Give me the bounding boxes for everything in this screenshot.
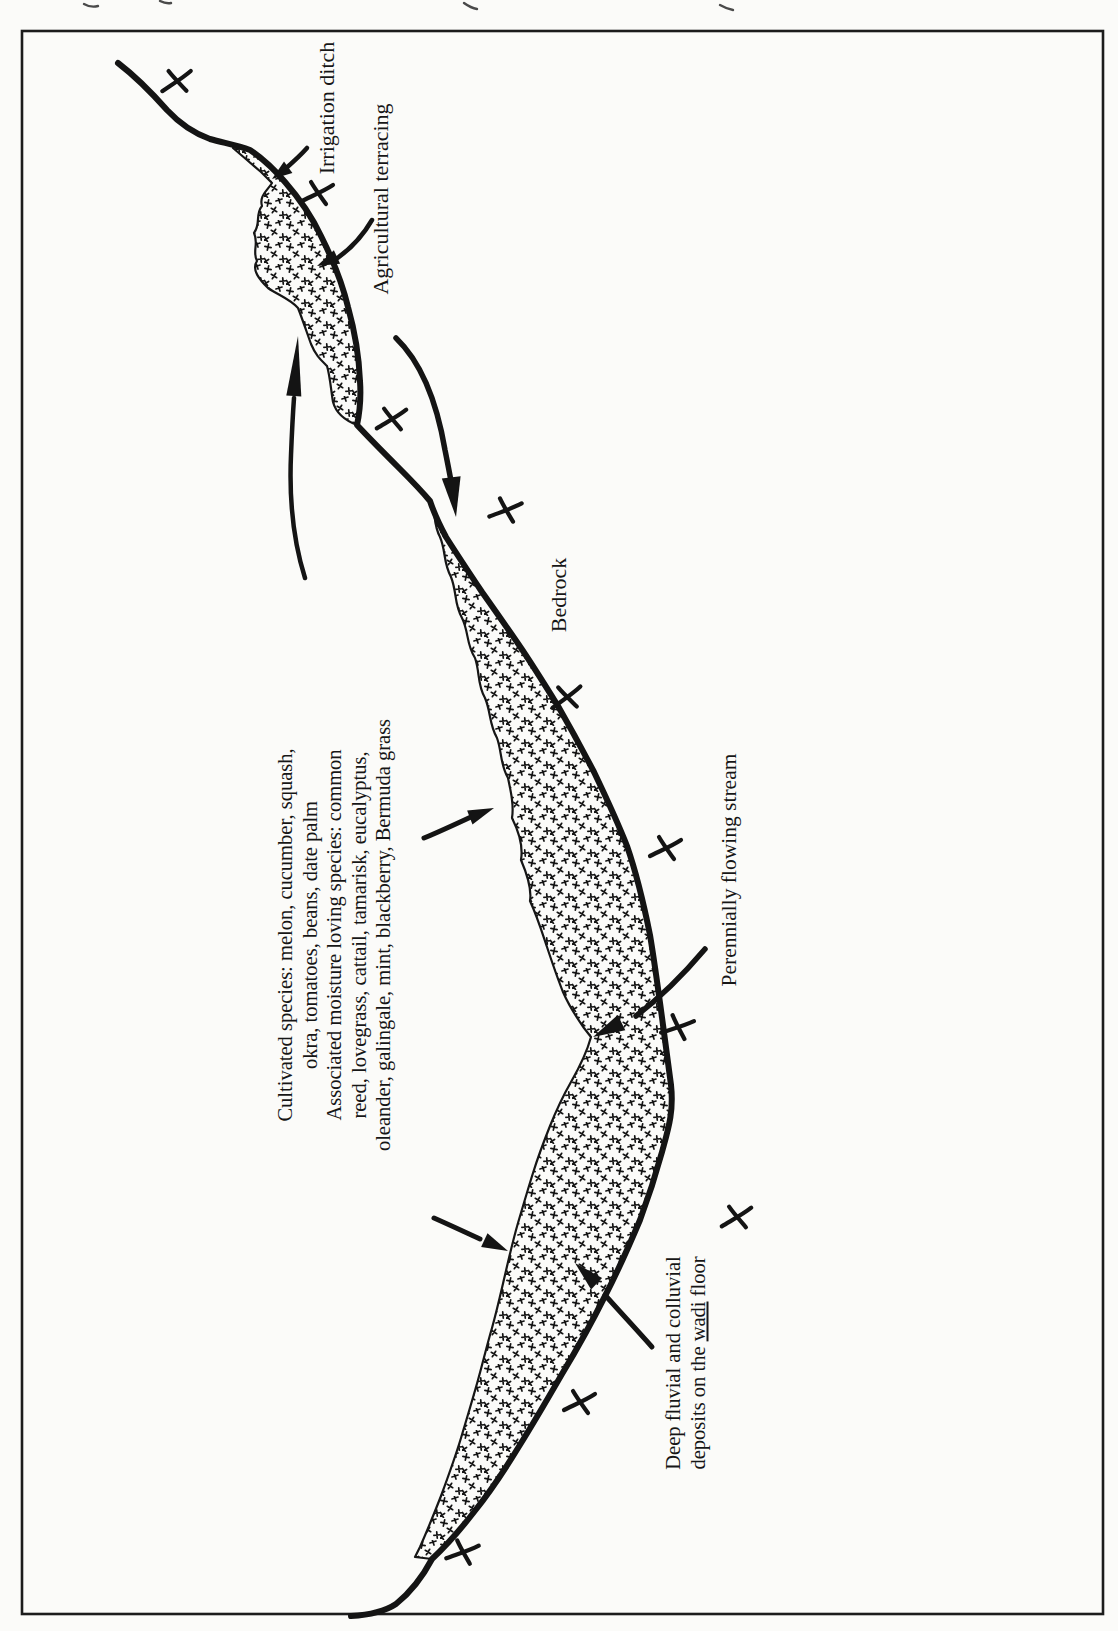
channel-bend-arrow	[396, 338, 461, 517]
wadi-floor-pointer-arrow	[434, 1218, 508, 1251]
bedrock-x-icon	[489, 498, 522, 523]
label-deep-deposits: Deep fluvial and colluvial deposits on t…	[661, 1256, 710, 1469]
wadi-plan-drawing	[0, 0, 1118, 1631]
deposits-line-1: Deep fluvial and colluvial	[661, 1256, 686, 1469]
underlined-word-wadi: wadi	[686, 1302, 708, 1342]
bedrock-x-icon	[564, 1391, 595, 1413]
species-pointer-arrow	[424, 808, 494, 838]
label-species-list: Cultivated species: melon, cucumber, squ…	[273, 719, 396, 1151]
bedrock-x-icon	[160, 68, 194, 94]
label-bedrock: Bedrock	[546, 558, 572, 633]
species-line-3: Associated moisture loving species: comm…	[322, 719, 347, 1151]
scan-artifact-marks	[84, 1, 733, 10]
bedrock-x-icon	[375, 407, 408, 432]
label-agricultural-terracing: Agricultural terracing	[368, 103, 394, 294]
bedrock-x-icon	[720, 1205, 753, 1230]
label-perennial-stream: Perennially flowing stream	[717, 754, 742, 987]
label-irrigation-ditch: Irrigation ditch	[314, 42, 340, 175]
species-line-1: Cultivated species: melon, cucumber, squ…	[273, 719, 298, 1151]
deposits-line-2: deposits on the wadi floor	[685, 1256, 710, 1469]
irrigation-ditch-arrow	[272, 148, 307, 179]
species-line-2: okra, tomatoes, beans, date palm	[297, 719, 322, 1151]
species-line-5: oleander, galingale, mint, blackberry, B…	[371, 719, 396, 1151]
species-line-4: reed, lovegrass, cattail, tamarisk, euca…	[346, 719, 371, 1151]
scanned-page: { "figure": { "kind": "wadi-oasis-plan-s…	[0, 0, 1118, 1631]
upstream-flow-arrow	[286, 336, 305, 578]
bedrock-x-icon	[650, 837, 681, 859]
bedrock-x-icon	[302, 182, 333, 204]
